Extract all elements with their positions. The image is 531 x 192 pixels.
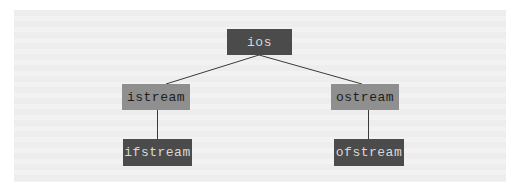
edge-ios-ostream — [259, 55, 362, 84]
node-istream-label: istream — [127, 90, 185, 105]
node-ofstream-label: ofstream — [336, 145, 402, 160]
node-ios: ios — [227, 29, 292, 55]
node-ostream: ostream — [331, 84, 399, 110]
edge-ios-istream — [166, 55, 259, 84]
node-ifstream: ifstream — [123, 139, 192, 166]
node-istream: istream — [122, 84, 190, 110]
node-ofstream: ofstream — [334, 139, 404, 166]
node-ostream-label: ostream — [336, 90, 394, 105]
node-ifstream-label: ifstream — [124, 145, 190, 160]
node-ios-label: ios — [247, 35, 272, 50]
